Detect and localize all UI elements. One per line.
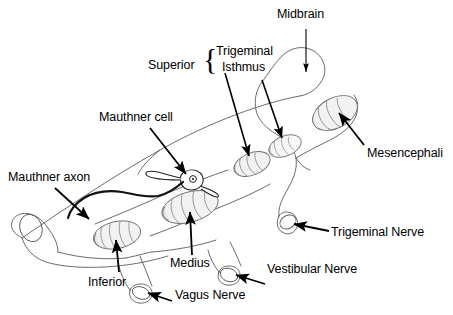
label-midbrain: Midbrain [277,7,324,21]
label-isthmus: Isthmus [222,60,265,74]
leader-mauthner-axon [55,188,89,219]
leader-vestibular-nerve [236,275,265,284]
label-vestibular-nerve: Vestibular Nerve [267,262,357,276]
leader-isthmus [262,80,282,138]
leader-mauthner-cell [150,128,186,174]
leader-trigeminal-nerve [294,224,329,231]
label-mauthner-cell: Mauthner cell [99,110,173,124]
label-trigeminal: Trigeminal [216,44,273,58]
figure-canvas: Midbrain Superior { Trigeminal Isthmus M… [0,0,453,315]
leader-trigeminal [225,73,249,156]
label-mauthner-axon: Mauthner axon [8,170,90,184]
label-vagus-nerve: Vagus Nerve [175,288,245,302]
label-trigeminal-nerve: Trigeminal Nerve [331,225,424,239]
nucleus-superior-trigeminal [230,147,273,182]
label-mesencephali: Mesencephali [367,146,443,160]
label-medius: Medius [170,256,210,270]
label-superior: Superior [148,58,194,72]
label-inferior: Inferior [88,275,126,289]
